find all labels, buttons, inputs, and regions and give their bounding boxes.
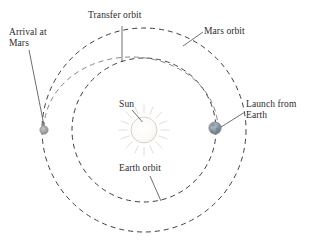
leader-line-arrival bbox=[29, 50, 44, 126]
orbit-canvas bbox=[0, 0, 323, 250]
label-transfer-orbit: Transfer orbit bbox=[88, 10, 142, 21]
sun-body bbox=[131, 117, 157, 143]
label-mars-orbit: Mars orbit bbox=[204, 26, 245, 37]
orbit-diagram: Arrival at Mars Transfer orbit Mars orbi… bbox=[0, 0, 323, 250]
leader-line-earth-orbit bbox=[150, 176, 161, 201]
leader-line-mars-orbit bbox=[183, 32, 203, 46]
label-sun: Sun bbox=[119, 99, 134, 110]
earth-marker bbox=[209, 122, 221, 134]
leader-line-launch bbox=[221, 112, 245, 127]
label-earth-orbit: Earth orbit bbox=[119, 163, 161, 174]
label-arrival-at-mars: Arrival at Mars bbox=[9, 27, 47, 49]
mars-marker bbox=[40, 126, 48, 134]
label-launch-from-earth: Launch from Earth bbox=[246, 99, 296, 121]
leader-lines bbox=[29, 26, 245, 201]
transfer-orbit-path bbox=[44, 57, 218, 129]
